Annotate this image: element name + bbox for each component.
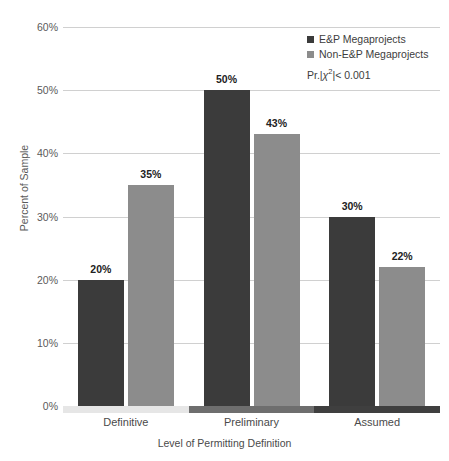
bar-value-label: 30% <box>342 200 363 212</box>
x-axis-category-label: Preliminary <box>224 416 279 428</box>
legend-swatch-icon <box>307 36 314 43</box>
bar-chart: Percent of Sample 0%10%20%30%40%50%60% 2… <box>0 0 449 461</box>
legend-swatch-icon <box>307 51 314 58</box>
bar-value-label: 43% <box>266 117 287 129</box>
y-axis-tick-label: 20% <box>14 274 58 286</box>
plot-area: 20%35%50%43%30%22% <box>63 27 440 406</box>
bar <box>204 90 250 406</box>
legend-item-non-ep: Non-E&P Megaprojects <box>307 48 429 60</box>
y-axis-tick-label: 60% <box>14 21 58 33</box>
gridline <box>63 217 440 218</box>
bar-value-label: 20% <box>90 263 111 275</box>
gridline <box>63 153 440 154</box>
legend-label: E&P Megaprojects <box>319 33 406 45</box>
significance-annotation: Pr.|χ2|< 0.001 <box>307 67 429 81</box>
x-axis-title: Level of Permitting Definition <box>0 437 449 449</box>
x-axis-category-label: Assumed <box>354 416 400 428</box>
baseline-segment <box>189 406 315 413</box>
y-axis-tick-label: 30% <box>14 211 58 223</box>
legend: E&P Megaprojects Non-E&P Megaprojects Pr… <box>307 33 429 81</box>
bar <box>128 185 174 406</box>
bar <box>254 134 300 406</box>
bar-value-label: 22% <box>392 250 413 262</box>
bar <box>78 280 124 406</box>
annotation-prefix: Pr.| <box>307 69 323 81</box>
bar <box>379 267 425 406</box>
y-axis-title: Percent of Sample <box>18 118 30 258</box>
y-axis-tick-label: 0% <box>14 400 58 412</box>
x-axis-baseline <box>63 406 440 413</box>
y-axis-tick-label: 50% <box>14 84 58 96</box>
annotation-suffix: |< 0.001 <box>332 69 370 81</box>
y-axis-tick-label: 10% <box>14 337 58 349</box>
x-axis-category-label: Definitive <box>103 416 148 428</box>
baseline-segment <box>63 406 189 413</box>
baseline-segment <box>314 406 440 413</box>
bar <box>329 217 375 407</box>
bar-value-label: 50% <box>216 73 237 85</box>
legend-item-ep: E&P Megaprojects <box>307 33 429 45</box>
gridline <box>63 90 440 91</box>
y-axis-tick-label: 40% <box>14 147 58 159</box>
bar-value-label: 35% <box>140 168 161 180</box>
legend-label: Non-E&P Megaprojects <box>319 48 429 60</box>
gridline <box>63 27 440 28</box>
